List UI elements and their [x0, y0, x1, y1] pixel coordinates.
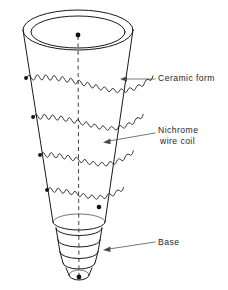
coil-band-2-start-dot: [31, 115, 35, 119]
callout-ceramic-form: Ceramic form: [120, 73, 215, 83]
base-arrow-icon: [103, 246, 110, 252]
coil-band-2-wire: [34, 114, 143, 130]
cone-top-rim-inner: [31, 16, 125, 48]
base-label: Base: [158, 237, 179, 247]
base-thread-ring-3-side-right: [95, 252, 98, 263]
coil-band-1-wire: [27, 75, 153, 93]
center-axis-dashed-line: [78, 36, 79, 277]
coil-band-4: [45, 188, 123, 210]
base-tip-taper-left: [66, 268, 69, 275]
ceramic-form-arrow-icon: [120, 76, 127, 82]
nichrome-label-line-1: Nichrome: [158, 125, 198, 135]
coil-band-2: [31, 114, 143, 130]
center-axis-group: [76, 33, 82, 280]
ceramic-form-label: Ceramic form: [158, 73, 215, 83]
figure-root: Ceramic form Nichrome wire coil Base: [0, 0, 228, 290]
axis-bottom-dot: [77, 275, 82, 280]
axis-top-dot: [76, 33, 81, 38]
coil-band-1-start-dot: [24, 76, 28, 80]
cone-left-wall: [23, 30, 53, 222]
coil-band-4-start-dot: [45, 188, 49, 192]
base-tip-taper-right: [89, 268, 92, 275]
coil-band-1: [24, 75, 153, 93]
coil-band-4-end-dot: [97, 205, 102, 210]
coil-band-3: [38, 151, 133, 166]
nichrome-arrow-icon: [103, 139, 111, 145]
coil-band-4-wire: [48, 188, 124, 200]
cone-heater-diagram: Ceramic form Nichrome wire coil Base: [0, 0, 228, 290]
coil-band-3-wire: [41, 151, 133, 166]
coil-band-3-start-dot: [38, 153, 42, 157]
nichrome-leader-line: [109, 133, 155, 141]
nichrome-label-line-2: wire coil: [159, 136, 195, 146]
base-leader-line: [109, 242, 155, 249]
callout-base: Base: [103, 237, 179, 252]
base-thread-ring-3-side: [60, 252, 63, 263]
